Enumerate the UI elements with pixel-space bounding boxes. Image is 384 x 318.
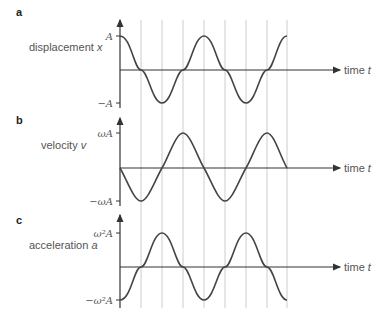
min-tick-label: −ω²A (85, 295, 113, 306)
max-tick-label: A (105, 31, 113, 42)
panel-letter: b (16, 114, 23, 126)
y-axis-label: velocity v (41, 139, 88, 151)
panel-displacement: a A −A displacement x time t (16, 6, 372, 109)
panel-letter: c (16, 214, 22, 226)
panel-velocity: b ωA −ωA velocity v time t (16, 114, 372, 207)
y-axis-label: acceleration a (29, 239, 98, 251)
min-tick-label: −ωA (89, 196, 113, 207)
time-axis-label: time t (344, 64, 372, 76)
shm-diagram: a A −A displacement x time t b ωA −ωA ve… (0, 0, 384, 318)
max-tick-label: ω²A (94, 228, 113, 239)
panel-acceleration: c ω²A −ω²A acceleration a time t (16, 214, 372, 308)
min-tick-label: −A (97, 98, 113, 109)
y-axis-label: displacement x (29, 41, 103, 53)
time-axis-label: time t (344, 261, 372, 273)
panel-letter: a (16, 6, 23, 18)
max-tick-label: ωA (98, 128, 113, 139)
time-axis-label: time t (344, 162, 372, 174)
